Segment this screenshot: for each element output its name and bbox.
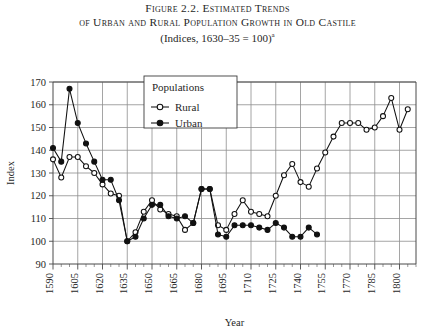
data-point-rural — [59, 175, 64, 180]
data-point-rural — [240, 198, 245, 203]
data-point-urban — [232, 223, 237, 228]
x-tick-label: 1755 — [316, 273, 327, 294]
data-point-rural — [381, 114, 386, 119]
x-tick-label: 1770 — [341, 273, 352, 294]
x-tick-label: 1605 — [69, 273, 80, 294]
data-point-rural — [257, 211, 262, 216]
figure-subtitle-footnote-marker: a — [272, 31, 275, 39]
data-point-urban — [216, 232, 221, 237]
data-point-rural — [249, 209, 254, 214]
figure-title-line-1: Figure 2.2. Estimated Trends — [0, 2, 435, 16]
data-point-rural — [183, 227, 188, 232]
data-point-urban — [290, 234, 295, 239]
data-point-urban — [265, 227, 270, 232]
data-point-rural — [339, 120, 344, 125]
data-point-urban — [240, 223, 245, 228]
data-point-rural — [356, 120, 361, 125]
data-point-rural — [372, 125, 377, 130]
data-point-urban — [51, 145, 56, 150]
y-axis-title: Index — [5, 160, 16, 185]
line-chart: 9010011012013014015016017015901605162016… — [0, 56, 435, 331]
x-tick-label: 1800 — [391, 273, 402, 294]
data-point-rural — [84, 164, 89, 169]
legend-label-rural: Rural — [175, 101, 199, 113]
data-point-urban — [199, 186, 204, 191]
data-point-urban — [224, 234, 229, 239]
data-point-rural — [348, 120, 353, 125]
data-point-urban — [306, 225, 311, 230]
data-point-urban — [100, 177, 105, 182]
data-point-urban — [158, 202, 163, 207]
x-tick-label: 1710 — [242, 273, 253, 294]
open-circle-icon — [157, 104, 163, 110]
x-tick-label: 1620 — [94, 273, 105, 294]
data-point-urban — [282, 225, 287, 230]
x-tick-label: 1695 — [217, 273, 228, 294]
data-point-urban — [150, 202, 155, 207]
data-point-urban — [298, 234, 303, 239]
data-point-rural — [364, 127, 369, 132]
x-tick-label: 1740 — [292, 273, 303, 294]
data-point-urban — [183, 214, 188, 219]
data-point-urban — [108, 177, 113, 182]
chart-plot-area: 9010011012013014015016017015901605162016… — [0, 56, 435, 331]
data-point-rural — [331, 134, 336, 139]
filled-circle-icon — [157, 120, 163, 126]
data-point-rural — [315, 166, 320, 171]
data-point-urban — [133, 234, 138, 239]
figure-subtitle: (Indices, 1630–35 = 100)a — [0, 31, 435, 45]
data-point-urban — [166, 214, 171, 219]
data-point-rural — [282, 173, 287, 178]
data-point-rural — [273, 193, 278, 198]
data-point-rural — [51, 157, 56, 162]
data-point-urban — [249, 223, 254, 228]
data-point-rural — [405, 107, 410, 112]
data-point-urban — [92, 159, 97, 164]
figure-subtitle-text: (Indices, 1630–35 = 100) — [160, 31, 271, 43]
data-point-rural — [265, 214, 270, 219]
y-tick-label: 110 — [31, 213, 46, 224]
x-tick-label: 1590 — [44, 273, 55, 294]
data-point-rural — [232, 211, 237, 216]
x-tick-label: 1635 — [118, 273, 129, 294]
legend-label-urban: Urban — [175, 117, 203, 129]
x-tick-label: 1665 — [168, 273, 179, 294]
data-point-urban — [207, 186, 212, 191]
y-tick-label: 120 — [30, 190, 46, 201]
x-axis-title: Year — [225, 317, 245, 328]
y-tick-label: 160 — [30, 99, 46, 110]
data-point-rural — [389, 95, 394, 100]
y-tick-label: 100 — [30, 236, 46, 247]
figure-title-line-2: of Urban and Rural Population Growth in … — [0, 16, 435, 30]
data-point-urban — [117, 198, 122, 203]
x-tick-label: 1650 — [143, 273, 154, 294]
y-tick-label: 130 — [30, 168, 46, 179]
x-tick-label: 1725 — [267, 273, 278, 294]
data-point-rural — [298, 180, 303, 185]
figure-title-block: Figure 2.2. Estimated Trends of Urban an… — [0, 2, 435, 45]
data-point-urban — [257, 225, 262, 230]
data-point-rural — [92, 171, 97, 176]
y-tick-label: 150 — [30, 122, 46, 133]
data-point-rural — [323, 150, 328, 155]
y-tick-label: 170 — [30, 77, 46, 88]
data-point-urban — [174, 216, 179, 221]
data-point-rural — [224, 227, 229, 232]
x-tick-label: 1680 — [193, 273, 204, 294]
data-point-rural — [306, 184, 311, 189]
data-point-urban — [141, 216, 146, 221]
data-point-urban — [59, 159, 64, 164]
chart-legend: PopulationsRuralUrban — [144, 76, 237, 129]
data-point-rural — [397, 127, 402, 132]
data-point-urban — [315, 232, 320, 237]
data-point-rural — [67, 155, 72, 160]
data-point-rural — [75, 155, 80, 160]
data-point-urban — [75, 120, 80, 125]
legend-title: Populations — [152, 81, 204, 93]
data-point-rural — [290, 161, 295, 166]
data-point-rural — [108, 191, 113, 196]
x-tick-label: 1785 — [366, 273, 377, 294]
y-tick-label: 90 — [36, 259, 47, 270]
data-point-urban — [273, 221, 278, 226]
data-point-rural — [141, 209, 146, 214]
